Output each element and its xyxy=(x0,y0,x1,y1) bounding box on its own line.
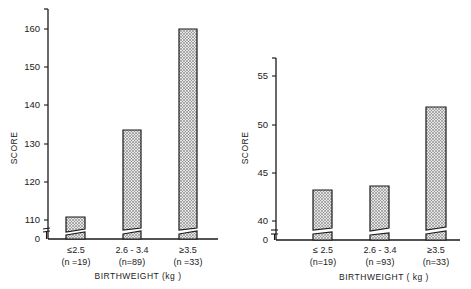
y-tick-labels: 160 150 140 130 120 110 0 xyxy=(24,23,40,244)
right-chart: 55 50 45 40 0 SCORE ≤ 2.5 (n=19) 2.6 - 3… xyxy=(240,0,471,289)
svg-text:≥3.5: ≥3.5 xyxy=(179,245,196,255)
svg-text:≤ 2.5: ≤ 2.5 xyxy=(313,245,333,255)
bar-1 xyxy=(313,190,332,240)
bar-1 xyxy=(66,217,85,239)
x-axis-title: BIRTHWEIGHT ( kg ) xyxy=(339,272,429,282)
svg-text:(n=89): (n=89) xyxy=(119,257,145,267)
svg-text:(n=33): (n=33) xyxy=(423,257,449,267)
axis-break-icon xyxy=(271,230,278,240)
svg-text:0: 0 xyxy=(263,234,268,245)
x-category-labels: ≤ 2.5 (n=19) 2.6 - 3.4 (n =93) ≥3.5 (n=3… xyxy=(310,245,449,267)
svg-text:120: 120 xyxy=(24,176,40,187)
svg-text:50: 50 xyxy=(257,119,268,130)
svg-text:130: 130 xyxy=(24,138,40,149)
svg-text:160: 160 xyxy=(24,23,40,34)
y-axis-title: SCORE xyxy=(240,132,250,165)
svg-text:45: 45 xyxy=(257,167,268,178)
svg-text:2.6 - 3.4: 2.6 - 3.4 xyxy=(363,245,396,255)
svg-text:≥3.5: ≥3.5 xyxy=(427,245,444,255)
svg-text:140: 140 xyxy=(24,99,40,110)
svg-text:(n =33): (n =33) xyxy=(174,257,203,267)
bar-3 xyxy=(426,107,446,240)
svg-text:0: 0 xyxy=(35,233,40,244)
svg-text:≤2.5: ≤2.5 xyxy=(67,245,84,255)
svg-text:150: 150 xyxy=(24,61,40,72)
bar-2 xyxy=(123,130,141,239)
x-category-labels: ≤2.5 (n =19) 2.6 - 3.4 (n=89) ≥3.5 (n =3… xyxy=(62,245,203,267)
svg-text:40: 40 xyxy=(257,215,268,226)
svg-text:55: 55 xyxy=(257,70,268,81)
left-chart: 160 150 140 130 120 110 0 SCORE ≤2.5 (n … xyxy=(0,0,240,289)
svg-text:(n =19): (n =19) xyxy=(62,257,91,267)
axis-break-icon xyxy=(43,228,50,239)
svg-text:2.6 - 3.4: 2.6 - 3.4 xyxy=(115,245,148,255)
bar-2 xyxy=(370,186,389,240)
y-tick-labels: 55 50 45 40 0 xyxy=(257,70,268,245)
x-axis-title: BIRTHWEIGHT (kg ) xyxy=(94,271,181,281)
svg-text:(n =93): (n =93) xyxy=(366,257,395,267)
svg-text:110: 110 xyxy=(25,214,40,225)
svg-text:(n=19): (n=19) xyxy=(310,257,336,267)
bar-3 xyxy=(179,29,197,239)
y-axis-title: SCORE xyxy=(9,132,19,165)
